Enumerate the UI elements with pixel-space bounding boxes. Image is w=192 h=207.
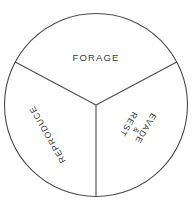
pie-diagram-svg: FORAGE REPRODUCE EVADE & REST — [0, 0, 192, 207]
segment-label-forage: FORAGE — [72, 52, 119, 63]
pie-diagram-container: FORAGE REPRODUCE EVADE & REST — [0, 0, 192, 207]
